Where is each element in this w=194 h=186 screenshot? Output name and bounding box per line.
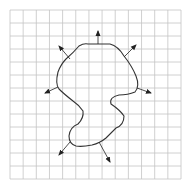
background xyxy=(0,0,194,186)
closed-curve-diagram xyxy=(0,0,194,186)
